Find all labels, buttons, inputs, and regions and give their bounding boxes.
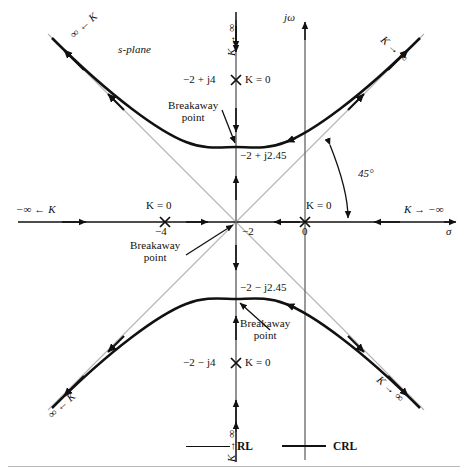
k-zero-pole-lower: K = 0 xyxy=(245,357,271,369)
legend-label-crl: CRL xyxy=(333,440,357,452)
breakaway-line2: point xyxy=(144,251,167,263)
breakaway-upper-line2: point xyxy=(182,111,205,123)
pole-lower-label: −2 − j4 xyxy=(183,357,216,369)
k-zero-pole-upper: K = 0 xyxy=(245,74,271,86)
k-infinity-vertical-top-label: K → ∞ xyxy=(226,24,238,56)
angle-indicator-45 xyxy=(330,145,348,218)
real-axis-label: σ xyxy=(446,226,452,238)
page-baseline-rule xyxy=(8,466,460,467)
root-locus-figure: s-plane jω σ 0 K = 0 −4 K = 0 Breakaway … xyxy=(0,0,468,475)
legend-label-rl: RL xyxy=(237,440,253,452)
legend-item-crl: CRL xyxy=(282,440,357,452)
breakaway-upper-line1: Breakaway xyxy=(168,99,218,111)
k-neg-infinity-left-label: −∞ ← K xyxy=(16,204,56,216)
breakaway-lower-line2: point xyxy=(254,329,277,341)
k-neg-infinity-right-label: K → −∞ xyxy=(404,204,444,216)
breakaway-sigma-label: −2 xyxy=(242,226,254,238)
breakaway-leader-lines xyxy=(186,110,270,330)
legend-swatch-crl xyxy=(282,445,326,447)
origin-label: 0 xyxy=(302,226,308,238)
pole-upper-label: −2 + j4 xyxy=(183,74,216,86)
breakaway-label-upper: Breakaway point xyxy=(168,100,218,124)
angle-45-label: 45° xyxy=(358,168,374,180)
s-plane-label: s-plane xyxy=(118,44,151,56)
imaginary-axis-label: jω xyxy=(284,12,295,24)
k-zero-origin: K = 0 xyxy=(306,200,332,212)
legend-swatch-rl xyxy=(186,446,230,447)
k-zero-minus4: K = 0 xyxy=(146,200,172,212)
breakaway-upper-value: −2 + j2.45 xyxy=(240,150,287,162)
breakaway-label-lower: Breakaway point xyxy=(240,318,290,342)
breakaway-line1: Breakaway xyxy=(130,239,180,251)
breakaway-label-real: Breakaway point xyxy=(130,240,180,264)
breakaway-lower-line1: Breakaway xyxy=(240,317,290,329)
legend-item-rl: RL xyxy=(186,440,253,452)
pole-minus4-label: −4 xyxy=(155,226,167,238)
breakaway-lower-value: −2 − j2.45 xyxy=(240,282,287,294)
